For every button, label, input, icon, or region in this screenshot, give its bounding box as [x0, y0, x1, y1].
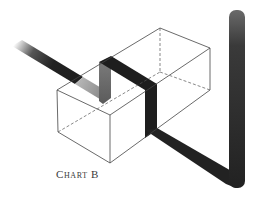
- band-ground: [145, 128, 240, 188]
- band-inside-light: [75, 77, 103, 101]
- band-riser: [229, 10, 245, 188]
- band-drop: [99, 62, 111, 104]
- band-entry: [12, 40, 83, 84]
- box-edges: [57, 28, 210, 163]
- figure-caption: Chart B: [56, 168, 99, 181]
- chart-b-diagram: [0, 0, 261, 197]
